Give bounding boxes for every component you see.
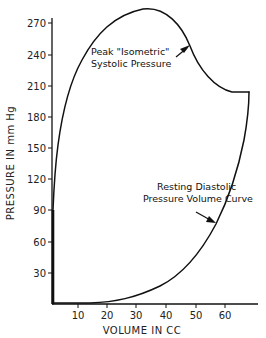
annotation-diastolic-line1: Resting Diastolic: [157, 181, 236, 192]
x-tick-label: 40: [160, 310, 173, 321]
x-tick-label: 10: [72, 310, 85, 321]
x-tick-label: 30: [130, 310, 143, 321]
annotation-resting-diastolic: Resting Diastolic Pressure Volume Curve: [143, 181, 253, 223]
y-axis-label: PRESSURE IN mm Hg: [5, 106, 16, 220]
y-tick-label: 120: [27, 174, 46, 185]
arrow-icon: [176, 45, 190, 57]
annotation-peak-systolic: Peak "Isometric" Systolic Pressure: [91, 45, 190, 69]
pressure-volume-chart: 30 60 90 120 150 180 210 240 270 10 20 3…: [0, 0, 266, 338]
y-tick-label: 240: [27, 50, 46, 61]
annotation-peak-line2: Systolic Pressure: [91, 58, 171, 69]
y-tick-label: 30: [33, 268, 46, 279]
y-tick-labels: 30 60 90 120 150 180 210 240 270: [27, 18, 46, 279]
x-axis-label: VOLUME IN CC: [103, 325, 182, 336]
x-tick-label: 60: [219, 310, 232, 321]
x-tick-label: 50: [190, 310, 203, 321]
y-tick-label: 150: [27, 143, 46, 154]
x-tick-labels: 10 20 30 40 50 60: [72, 310, 232, 321]
y-tick-label: 210: [27, 81, 46, 92]
y-tick-label: 90: [33, 205, 46, 216]
annotation-diastolic-line2: Pressure Volume Curve: [143, 193, 253, 204]
y-tick-label: 180: [27, 112, 46, 123]
arrow-icon: [196, 212, 216, 223]
y-tick-label: 270: [27, 18, 46, 29]
x-tick-label: 20: [101, 310, 114, 321]
annotation-peak-line1: Peak "Isometric": [91, 46, 169, 57]
y-tick-label: 60: [33, 237, 46, 248]
